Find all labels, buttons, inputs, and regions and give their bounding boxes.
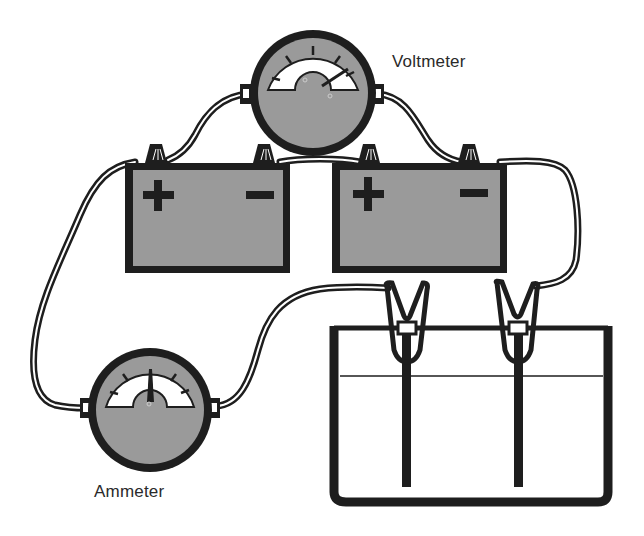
electrode-left [386, 283, 427, 487]
wire-right-battery-to-right-electrode [500, 161, 578, 286]
ammeter [80, 348, 220, 472]
wire-voltmeter-to-right-battery [378, 94, 462, 162]
minus-sign-left [246, 191, 274, 199]
battery-left-terminal-minus [253, 144, 275, 163]
electrolytic-cell [334, 281, 608, 502]
wire-voltmeter-to-left-battery [168, 94, 248, 160]
wire-ammeter-to-left-electrode [216, 287, 388, 406]
battery-right-terminal-minus [458, 144, 480, 163]
battery-left [125, 144, 290, 273]
circuit-diagram: Voltmeter Ammeter [0, 0, 644, 536]
voltmeter-label: Voltmeter [392, 52, 466, 72]
minus-sign-right [460, 189, 488, 197]
beaker [334, 326, 608, 502]
battery-right-terminal-plus [358, 144, 380, 163]
ammeter-label: Ammeter [94, 482, 164, 502]
electrode-right [496, 281, 538, 487]
wire-battery-bridge [280, 159, 360, 162]
battery-left-terminal-plus [145, 144, 167, 163]
voltmeter [240, 30, 384, 156]
battery-right [332, 144, 507, 273]
